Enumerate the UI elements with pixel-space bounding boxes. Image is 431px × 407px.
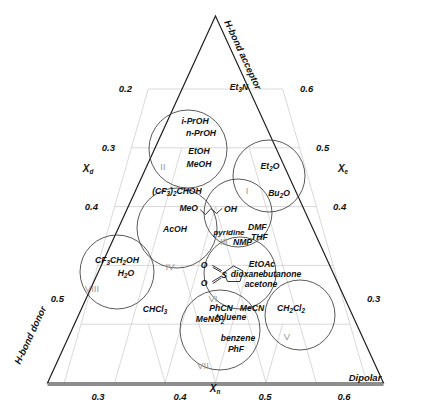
roman-numeral-iii: III — [220, 236, 228, 247]
species-chcl3: CHCl3 — [143, 304, 168, 315]
roman-numeral-ii: II — [160, 161, 165, 172]
species-acetone: acetone — [245, 279, 278, 289]
roman-numeral-v: V — [284, 331, 291, 342]
corner-label-dipolar: Dipolar — [349, 372, 383, 383]
species-ch2cl2: CH2Cl2 — [277, 303, 306, 314]
roman-numeral-vi: VI — [209, 293, 218, 304]
cluster-circle-vii — [180, 290, 260, 370]
ternary-chart-svg: 0.2 0.3 0.4 0.5 0.6 0.5 0.4 0.3 0.3 0.4 … — [0, 0, 431, 407]
roman-numeral-viii: VIII — [85, 283, 99, 294]
species-meo: MeO — [179, 203, 198, 213]
species-i-proh: i-PrOH — [181, 116, 209, 126]
axis-title-xd: Xd — [82, 163, 94, 175]
axis-titles: Xd Xe Xn — [82, 163, 349, 395]
species-etoac: EtOAc — [249, 259, 275, 269]
roman-numeral-vii: VII — [197, 360, 209, 371]
tick-bottom-1: 0.4 — [173, 391, 187, 402]
ternary-diagram-figure: 0.2 0.3 0.4 0.5 0.6 0.5 0.4 0.3 0.3 0.4 … — [0, 0, 431, 407]
tick-left-1: 0.3 — [102, 142, 116, 153]
species-butanone: butanone — [263, 269, 302, 279]
species-hfip: (CF3)2CHOH — [152, 186, 202, 197]
species-et3n: Et3N — [230, 82, 249, 93]
tick-right-1: 0.5 — [316, 142, 330, 153]
species-nmp: NMP — [233, 237, 252, 247]
species-labels: i-PrOH n-PrOH EtOH MeOH Et3N Et2O Bu2O (… — [95, 82, 305, 354]
tick-bottom-0: 0.3 — [91, 391, 105, 402]
tick-left-2: 0.4 — [85, 201, 99, 212]
species-n-proh: n-PrOH — [186, 128, 217, 138]
species-meoh: MeOH — [187, 159, 213, 169]
species-h2o: H2O — [118, 268, 135, 279]
tick-left-0: 0.2 — [119, 83, 133, 94]
cluster-circle-i — [233, 140, 305, 212]
corner-label-hbond-donor: H-bond donor — [12, 303, 49, 366]
species-benzene: benzene — [221, 333, 256, 343]
species-pyridine: pyridine — [212, 228, 245, 237]
species-oh: OH — [224, 204, 238, 214]
axis-title-xe: Xe — [337, 163, 349, 175]
corner-labels: H-bond acceptor H-bond donor Dipolar — [12, 18, 383, 383]
tick-right-0: 0.6 — [300, 83, 314, 94]
species-phf: PhF — [228, 344, 245, 354]
tick-right-2: 0.4 — [333, 201, 347, 212]
roman-numeral-iv: IV — [166, 261, 176, 272]
cluster-circle-v — [265, 280, 335, 350]
tick-left-3: 0.5 — [51, 293, 65, 304]
species-sulfolane-o-bottom: O — [201, 278, 208, 288]
species-sulfolane-o-top: O — [201, 260, 208, 270]
roman-numeral-i: I — [246, 185, 249, 196]
species-tfe: CF3CH2OH — [95, 255, 140, 266]
tick-right-3: 0.3 — [367, 293, 381, 304]
species-sulfolane-s: S — [221, 270, 227, 280]
species-dioxane: dioxane — [231, 269, 264, 279]
tick-bottom-2: 0.5 — [258, 391, 272, 402]
species-dmf: DMF — [248, 222, 267, 232]
species-acoh: AcOH — [162, 224, 188, 234]
tick-bottom-3: 0.6 — [337, 391, 351, 402]
species-etoh: EtOH — [188, 146, 210, 156]
species-meno2: MeNO2 — [196, 314, 225, 325]
species-thf: THF — [251, 232, 268, 242]
species-bu2o: Bu2O — [268, 188, 290, 199]
species-et2o: Et2O — [261, 161, 280, 172]
